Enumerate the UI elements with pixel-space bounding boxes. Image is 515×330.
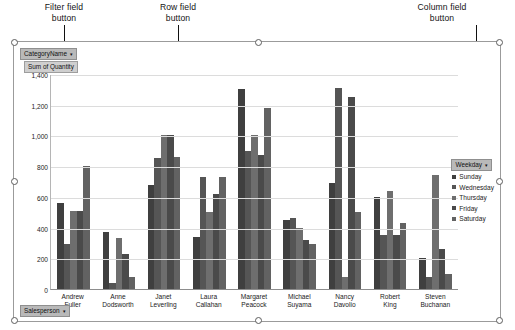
y-tick-label: 800 [37,164,48,171]
legend-swatch-icon [452,175,456,179]
gridline [51,229,458,230]
legend-label: Wednesday [459,184,494,191]
selection-handle-middle-left[interactable] [11,178,18,185]
bar[interactable] [129,277,136,289]
row-field-label: Salesperson [24,307,60,315]
chevron-down-icon[interactable]: ▾ [485,163,488,168]
row-field-callout: Row field button [132,2,224,23]
chevron-down-icon[interactable]: ▾ [63,309,66,314]
chevron-down-icon[interactable]: ▾ [70,52,73,57]
bar-group [277,75,322,289]
y-tick-label: 1,200 [31,102,48,109]
bar-groups [51,75,458,289]
legend-swatch-icon [452,196,456,200]
y-tick-label: 200 [37,256,48,263]
bar[interactable] [400,223,407,289]
plot-wrapper: 1,4001,2001,0008006004002000 Andrew Full… [14,42,500,321]
bar-group [368,75,413,289]
legend-item: Thursday [452,194,494,201]
legend-item: Wednesday [452,184,494,191]
bar-group [187,75,232,289]
legend-swatch-icon [452,206,456,210]
bar-group [322,75,367,289]
bar[interactable] [445,274,452,289]
x-tick-label: Nancy Davolio [322,293,367,309]
bar[interactable] [219,177,226,289]
gridline [51,136,458,137]
x-tick-label: Steven Buchanan [413,293,458,309]
legend-item: Friday [452,205,494,212]
column-field-callout: Column field button [392,2,492,23]
bar[interactable] [174,157,181,289]
bar-group [96,75,141,289]
x-tick-label: Laura Callahan [186,293,231,309]
selection-handle-top-center[interactable] [255,39,262,46]
x-tick-label: Robert King [367,293,412,309]
legend-label: Sunday [459,173,481,180]
bar[interactable] [355,212,362,289]
selection-handle-top-right[interactable] [496,39,503,46]
selection-handle-bottom-center[interactable] [255,317,262,324]
column-field-label: Weekday [455,161,482,169]
row-field-button[interactable]: Salesperson ▾ [20,305,70,317]
y-tick-label: 1,000 [31,133,48,140]
legend: SundayWednesdayThursdayFridaySaturday [452,173,494,222]
x-tick-label: Michael Suyama [277,293,322,309]
bar[interactable] [103,232,110,289]
gridline [51,259,458,260]
selection-handle-bottom-right[interactable] [496,317,503,324]
legend-label: Saturday [459,215,485,222]
x-tick-label: Anne Dodsworth [95,293,140,309]
value-field-label: Sum of Quantity [28,63,74,71]
selection-handle-top-left[interactable] [11,39,18,46]
x-tick-label: Margaret Peacock [231,293,276,309]
pivot-chart-object[interactable]: CategoryName ▾ Sum of Quantity Salespers… [13,41,501,322]
y-tick-label: 0 [44,287,48,294]
gridline [51,198,458,199]
gridline [51,167,458,168]
filter-field-button[interactable]: CategoryName ▾ [20,48,77,60]
plot-area[interactable] [50,75,458,290]
y-tick-label: 600 [37,194,48,201]
legend-item: Saturday [452,215,494,222]
legend-label: Friday [459,205,477,212]
legend-item: Sunday [452,173,494,180]
selection-handle-bottom-left[interactable] [11,317,18,324]
bar-group [51,75,96,289]
bar-group [232,75,277,289]
bar[interactable] [309,244,316,289]
filter-field-callout: Filter field button [18,2,110,23]
legend-swatch-icon [452,217,456,221]
selection-handle-middle-right[interactable] [496,178,503,185]
legend-swatch-icon [452,185,456,189]
filter-field-label: CategoryName [24,50,67,58]
bar-group [141,75,186,289]
legend-label: Thursday [459,194,487,201]
x-tick-label: Janet Leverling [141,293,186,309]
bar-group [413,75,458,289]
y-axis: 1,4001,2001,0008006004002000 [22,75,48,290]
x-axis-labels: Andrew FullerAnne DodsworthJanet Leverli… [50,293,458,309]
column-field-button[interactable]: Weekday ▾ [451,159,492,171]
y-tick-label: 400 [37,225,48,232]
value-field-button[interactable]: Sum of Quantity [24,61,78,73]
gridline [51,75,458,76]
gridline [51,106,458,107]
